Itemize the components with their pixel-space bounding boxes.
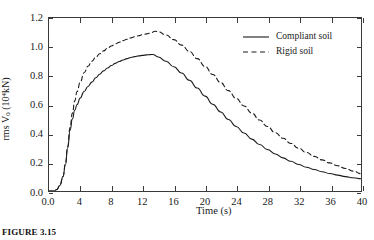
y-tick-label: 0.4 xyxy=(0,128,43,139)
y-tick-mark xyxy=(49,135,53,136)
y-tick-mark xyxy=(49,106,53,107)
x-tick-label: 0.0 xyxy=(33,196,63,207)
y-tick-label: 1.0 xyxy=(0,41,43,52)
x-tick-mark-top xyxy=(269,18,270,23)
x-tick-mark xyxy=(300,186,301,191)
x-tick-mark xyxy=(112,186,113,191)
legend-item-rigid-soil: Rigid soil xyxy=(243,45,355,58)
x-tick-mark-top xyxy=(332,18,333,23)
x-tick-mark xyxy=(237,186,238,191)
x-tick-mark-top xyxy=(363,18,364,23)
x-tick-mark-top xyxy=(237,18,238,23)
y-tick-mark-right xyxy=(357,193,361,194)
y-tick-mark xyxy=(49,18,53,19)
legend-swatch-dashed-icon xyxy=(243,48,269,56)
x-tick-mark-top xyxy=(206,18,207,23)
x-tick-label: 20 xyxy=(190,196,220,207)
x-tick-label: 16 xyxy=(159,196,189,207)
legend-label-rigid-soil: Rigid soil xyxy=(276,45,313,58)
x-tick-mark xyxy=(143,186,144,191)
y-tick-mark xyxy=(49,76,53,77)
x-tick-mark xyxy=(175,186,176,191)
y-tick-mark xyxy=(49,193,53,194)
x-tick-mark-top xyxy=(80,18,81,23)
x-tick-mark-top xyxy=(300,18,301,23)
y-tick-label: 0.2 xyxy=(0,157,43,168)
legend-label-compliant-soil: Compliant soil xyxy=(276,30,332,43)
x-tick-label: 28 xyxy=(253,196,283,207)
x-tick-mark xyxy=(332,186,333,191)
x-tick-mark xyxy=(269,186,270,191)
x-tick-mark xyxy=(363,186,364,191)
y-tick-mark xyxy=(49,164,53,165)
x-tick-label: 4 xyxy=(64,196,94,207)
y-tick-mark-right xyxy=(357,47,361,48)
y-tick-mark-right xyxy=(357,135,361,136)
chart-legend: Compliant soil Rigid soil xyxy=(243,30,355,60)
x-tick-label: 12 xyxy=(127,196,157,207)
y-tick-mark xyxy=(49,47,53,48)
x-tick-label: 24 xyxy=(221,196,251,207)
x-tick-mark xyxy=(80,186,81,191)
legend-swatch-solid-icon xyxy=(243,33,269,41)
legend-item-compliant-soil: Compliant soil xyxy=(243,30,355,43)
y-tick-label: 0.6 xyxy=(0,99,43,110)
x-tick-label: 36 xyxy=(316,196,346,207)
figure-caption: FIGURE 3.15 xyxy=(2,227,56,238)
series-compliant-soil-line xyxy=(49,54,361,191)
y-tick-label: 0.8 xyxy=(0,70,43,81)
x-tick-mark-top xyxy=(112,18,113,23)
x-tick-mark-top xyxy=(175,18,176,23)
x-tick-label: 32 xyxy=(284,196,314,207)
x-tick-label: 8 xyxy=(96,196,126,207)
x-tick-mark xyxy=(206,186,207,191)
y-tick-mark-right xyxy=(357,106,361,107)
y-tick-mark-right xyxy=(357,76,361,77)
figure-container: rms ~V0 (104kN) Time (s) 0.00.20.40.60.8… xyxy=(0,0,374,240)
y-tick-mark-right xyxy=(357,18,361,19)
x-tick-label: 40 xyxy=(347,196,374,207)
y-tick-label: 1.2 xyxy=(0,12,43,23)
x-tick-mark-top xyxy=(143,18,144,23)
y-tick-mark-right xyxy=(357,164,361,165)
